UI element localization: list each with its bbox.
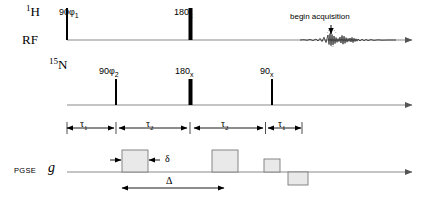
nitrogen-nucleus: N	[58, 57, 67, 72]
phase-text: x	[190, 71, 194, 78]
proton-nucleus: H	[31, 4, 40, 19]
tau-sub: 1	[282, 124, 286, 132]
diffusion-time-label-Delta: Δ	[166, 176, 172, 186]
flip-angle-text: 90	[260, 66, 270, 76]
flip-angle-text: 180	[174, 7, 189, 17]
nitrogen-mass-number: 15	[49, 56, 58, 66]
nitrogen-pulse-label-180-x: 180x	[175, 67, 194, 78]
nitrogen-pulse-90-phi2	[115, 79, 117, 105]
gradient-pulse-1	[122, 150, 148, 172]
flip-angle-text: 90	[99, 66, 109, 76]
gradient-pulse-3	[264, 159, 280, 172]
flip-angle-text: 180	[175, 66, 190, 76]
gradient-pulse-2	[212, 150, 238, 172]
timing-label-tau1-right: τ1	[278, 119, 286, 132]
phase-text: x	[270, 71, 274, 78]
phase-text: x	[189, 12, 193, 19]
pulse-sequence-canvas	[0, 0, 426, 203]
timing-arrows	[67, 122, 302, 134]
tau-sub: 2	[150, 124, 154, 132]
channel-label-nitrogen: 15N	[49, 57, 67, 71]
timing-label-tau1-left: τ1	[80, 119, 88, 132]
gradient-duration-label-delta: δ	[165, 154, 170, 164]
channel-label-pgse: PGSE	[14, 167, 36, 175]
nitrogen-pulse-label-90-x: 90x	[260, 67, 274, 78]
proton-pulse-label-180-x: 180x	[174, 8, 193, 19]
tau-sub: 2	[225, 124, 229, 132]
timing-label-tau2-right: τ2	[221, 119, 229, 132]
nitrogen-pulse-label-90-phi2: 90φ2	[99, 67, 119, 78]
gradient-amplitude-symbol: g	[48, 161, 55, 175]
timing-label-tau2-left: τ2	[146, 119, 154, 132]
channel-label-proton: 1H	[26, 4, 40, 18]
gradient-pulse-4	[288, 172, 308, 185]
flip-angle-text: 90	[59, 7, 69, 17]
tau-sub: 1	[84, 124, 88, 132]
nitrogen-pulse-90-x	[271, 79, 273, 105]
begin-acquisition-label: begin acquisition	[290, 13, 350, 21]
proton-pulse-label-90-phi1: 90φ1	[59, 8, 79, 19]
channel-label-rf: RF	[22, 33, 38, 46]
nmr-pulse-sequence-figure: 1H RF 15N PGSE g 90φ1 180x 90φ2 180x 90x…	[0, 0, 426, 203]
nitrogen-pulse-180-x	[189, 79, 193, 105]
